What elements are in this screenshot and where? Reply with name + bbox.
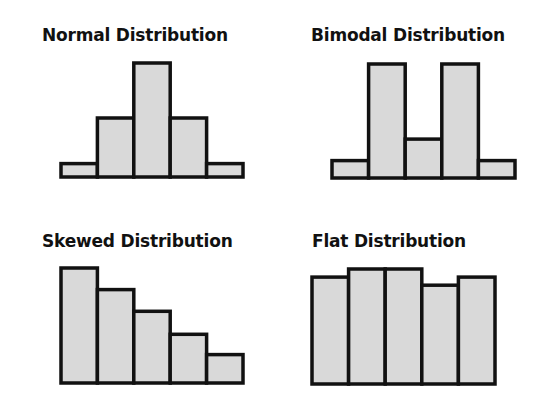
histogram-bar [97, 118, 133, 177]
histogram-bar [61, 164, 97, 177]
histogram-bar [61, 268, 97, 383]
histogram-bar [458, 277, 495, 384]
histogram-canvas [0, 0, 556, 409]
skewed-distribution-histogram [61, 268, 243, 383]
normal-distribution-histogram [61, 63, 243, 177]
histogram-bar [349, 269, 386, 384]
histogram-bar [207, 355, 243, 383]
histogram-bar [170, 118, 206, 177]
histogram-bar [170, 334, 206, 383]
histogram-bar [312, 277, 349, 384]
bimodal-distribution-histogram [332, 64, 515, 178]
histogram-bar [478, 161, 515, 178]
histogram-bar [422, 285, 459, 384]
histogram-bar [332, 161, 369, 178]
histogram-bar [97, 290, 133, 383]
histogram-bar [385, 269, 422, 384]
histogram-bar [405, 139, 442, 178]
histogram-bar [134, 311, 170, 383]
flat-distribution-histogram [312, 269, 495, 384]
histogram-bar [369, 64, 406, 178]
histogram-bar [207, 164, 243, 177]
histogram-bar [134, 63, 170, 177]
histogram-bar [442, 64, 479, 178]
